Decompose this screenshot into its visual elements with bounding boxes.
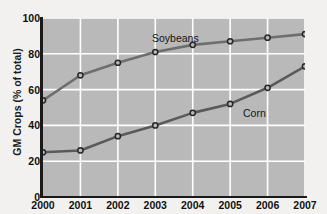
series-label-soybeans: Soybeans bbox=[152, 32, 199, 44]
data-point-marker bbox=[78, 73, 83, 78]
y-tick-label: 80 bbox=[28, 49, 40, 59]
x-tick-label: 2002 bbox=[106, 199, 129, 211]
data-point-marker bbox=[115, 60, 120, 65]
y-tick-label: 60 bbox=[28, 85, 40, 95]
data-point-marker bbox=[78, 148, 83, 153]
x-tick-label: 2003 bbox=[144, 199, 167, 211]
y-tick-label: 20 bbox=[28, 156, 40, 166]
y-tick-label: 100 bbox=[22, 13, 40, 23]
gm-crops-line-chart: GM Crops (% of total) 020406080100 20002… bbox=[0, 0, 327, 214]
x-tick-label: 2005 bbox=[218, 199, 241, 211]
x-tick-label: 2000 bbox=[31, 199, 54, 211]
x-tick-label: 2007 bbox=[293, 199, 316, 211]
data-point-marker bbox=[153, 123, 158, 128]
data-point-marker bbox=[302, 32, 305, 37]
x-axis-tick-labels: 20002001200220032004200520062007 bbox=[0, 199, 327, 214]
x-tick-label: 2001 bbox=[69, 199, 92, 211]
data-point-marker bbox=[265, 35, 270, 40]
data-point-marker bbox=[228, 101, 233, 106]
x-tick-label: 2004 bbox=[181, 199, 204, 211]
y-axis-tick-labels: 020406080100 bbox=[14, 0, 40, 214]
data-point-marker bbox=[153, 49, 158, 54]
data-point-marker bbox=[190, 110, 195, 115]
data-point-marker bbox=[228, 39, 233, 44]
y-axis-spine bbox=[40, 17, 43, 198]
data-point-marker bbox=[43, 150, 46, 155]
data-point-marker bbox=[302, 64, 305, 69]
data-point-marker bbox=[115, 134, 120, 139]
series-label-corn: Corn bbox=[243, 107, 266, 119]
x-axis-spine bbox=[40, 196, 307, 198]
data-point-marker bbox=[265, 85, 270, 90]
data-point-marker bbox=[43, 98, 46, 103]
x-tick-label: 2006 bbox=[256, 199, 279, 211]
y-tick-label: 40 bbox=[28, 120, 40, 130]
